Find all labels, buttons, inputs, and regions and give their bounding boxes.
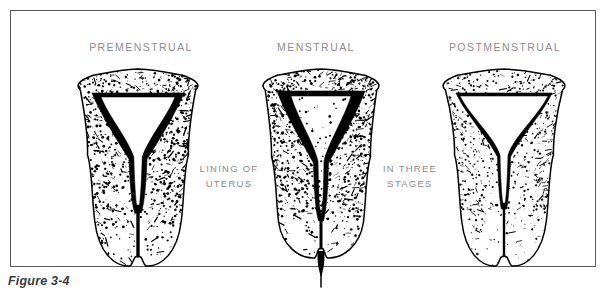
stage-heading-postmenstrual: POSTMENSTRUAL [449,41,561,53]
stage-heading-menstrual: MENSTRUAL [277,41,355,53]
figure-plate: PREMENSTRUAL MENSTRUAL POSTMENSTRUAL LIN… [10,10,596,267]
uterus-illustration-menstrual [246,63,396,288]
figure-number-caption: Figure 3-4 [8,274,70,288]
uterus-illustration-postmenstrual [429,63,579,278]
uterus-illustration-premenstrual [63,63,213,278]
stage-heading-premenstrual: PREMENSTRUAL [89,41,193,53]
